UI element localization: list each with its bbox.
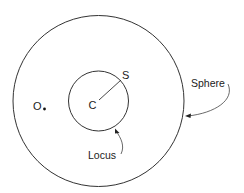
label-sphere: Sphere	[191, 77, 225, 89]
point-o-dot	[43, 108, 46, 111]
label-locus: Locus	[88, 149, 116, 161]
radius-cs	[99, 80, 121, 100]
label-s: S	[122, 69, 129, 81]
label-c: C	[89, 99, 97, 111]
locus-arrowhead-icon	[115, 129, 120, 134]
sphere-locus-diagram: O C S Sphere Locus	[0, 0, 244, 193]
locus-leader-arrow	[116, 131, 123, 154]
label-o: O	[33, 100, 42, 112]
locus-circle	[69, 71, 129, 131]
sphere-arrowhead-icon	[185, 114, 191, 119]
